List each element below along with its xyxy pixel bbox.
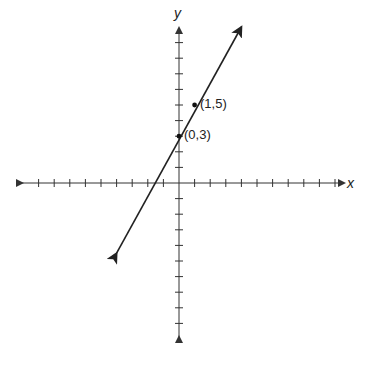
point-marker (192, 103, 197, 108)
coordinate-plane: x y (0,3) (1,5) (0, 0, 382, 386)
x-axis-label: x (346, 175, 355, 191)
point-label-1-5: (1,5) (200, 96, 227, 111)
point-marker (177, 134, 182, 139)
point-label-0-3: (0,3) (184, 127, 211, 142)
y-axis-label: y (173, 5, 182, 21)
